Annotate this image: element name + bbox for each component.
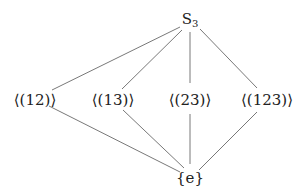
edge-123-e [199, 112, 257, 170]
edge-s3-12 [52, 27, 180, 90]
node-s3-sub: 3 [192, 18, 198, 29]
node-23: ⟨(23)⟩ [169, 93, 212, 108]
edge-13-e [123, 110, 184, 168]
node-identity: {e} [176, 171, 204, 186]
node-123: ⟨(123)⟩ [241, 93, 293, 108]
node-s3: S3 [182, 12, 199, 29]
node-s3-base: S [182, 10, 192, 28]
edge-s3-123 [200, 29, 257, 88]
node-12: ⟨(12)⟩ [14, 93, 57, 108]
node-13: ⟨(13)⟩ [92, 93, 135, 108]
lattice-diagram: S3 ⟨(12)⟩ ⟨(13)⟩ ⟨(23)⟩ ⟨(123)⟩ {e} [0, 0, 305, 196]
edge-s3-13 [122, 30, 182, 89]
edge-12-e [49, 106, 180, 172]
